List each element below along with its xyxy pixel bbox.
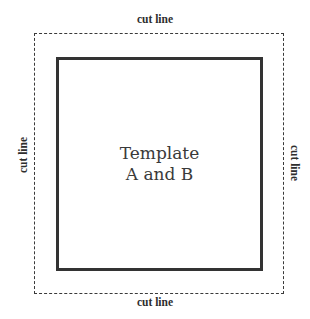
cut-line-label-top: cut line bbox=[0, 13, 310, 25]
template-label: Template A and B bbox=[56, 57, 263, 271]
cut-line-label-left: cut line bbox=[17, 137, 29, 173]
template-label-line1: Template bbox=[120, 143, 200, 164]
cut-line-label-right: cut line bbox=[289, 145, 301, 181]
template-label-line2: A and B bbox=[126, 164, 194, 185]
cut-line-label-bottom: cut line bbox=[0, 296, 310, 308]
